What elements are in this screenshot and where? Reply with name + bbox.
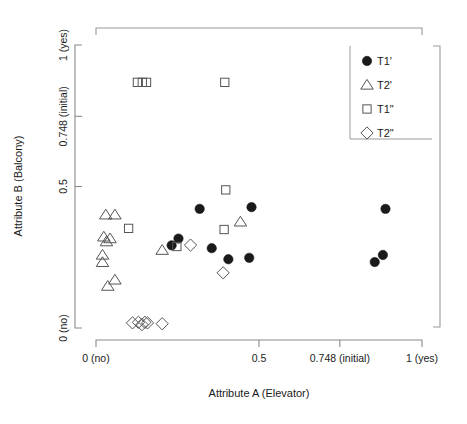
data-point-marker	[174, 234, 183, 243]
data-points-layer	[96, 78, 390, 331]
series-T1	[167, 202, 390, 266]
y-tick-label: 0.748 (initial)	[57, 86, 69, 146]
data-point-marker	[101, 281, 113, 291]
data-point-marker	[222, 186, 230, 194]
data-point-marker	[217, 267, 229, 279]
data-point-marker	[124, 224, 132, 232]
y-axis-title: Attribute B (Balcony)	[12, 136, 24, 237]
data-point-marker	[109, 274, 121, 284]
x-axis-tick-labels: 0 (no)0.50.748 (initial)1 (yes)	[82, 352, 438, 364]
legend-items: T1'T2'T1"T2"	[361, 55, 394, 139]
legend-marker-filled-circle	[362, 56, 371, 65]
x-tick-label: 0 (no)	[82, 352, 109, 364]
data-point-marker	[96, 257, 108, 267]
x-tick-label: 1 (yes)	[406, 352, 438, 364]
data-point-marker	[247, 202, 256, 211]
legend-marker-open-diamond	[361, 127, 373, 139]
x-axis-ticks	[259, 340, 340, 347]
legend-marker-open-square	[363, 105, 371, 113]
data-point-marker	[195, 204, 204, 213]
data-point-marker	[224, 255, 233, 264]
data-point-marker	[220, 225, 228, 233]
data-point-marker	[133, 78, 141, 86]
plot-canvas: 0 (no)0.50.748 (initial)1 (yes) 0 (no)0.…	[0, 0, 467, 424]
x-axis-title: Attribute A (Elevator)	[209, 387, 310, 399]
data-point-marker	[245, 253, 254, 262]
x-tick-label: 0.748 (initial)	[310, 352, 370, 364]
data-point-marker	[378, 250, 387, 259]
data-point-marker	[184, 239, 196, 251]
legend-label: T2'	[377, 79, 392, 91]
right-frame-bracket	[433, 46, 440, 327]
y-axis-tick-labels: 0 (no)0.50.748 (initial)1 (yes)	[57, 29, 69, 342]
legend: T1'T2'T1"T2"	[350, 46, 432, 139]
y-tick-label: 1 (yes)	[57, 29, 69, 61]
y-axis-ticks	[75, 116, 82, 186]
y-tick-label: 0 (no)	[57, 314, 69, 341]
legend-marker-open-triangle	[361, 79, 373, 89]
x-tick-label: 0.5	[252, 352, 267, 364]
y-tick-label: 0.5	[57, 179, 69, 194]
data-point-marker	[381, 204, 390, 213]
data-point-marker	[234, 216, 246, 226]
data-point-marker	[370, 257, 379, 266]
top-frame-bracket	[96, 28, 422, 35]
scatter-plot-figure: 0 (no)0.50.748 (initial)1 (yes) 0 (no)0.…	[0, 0, 467, 424]
series-T2	[126, 239, 229, 331]
data-point-marker	[156, 245, 168, 255]
data-point-marker	[207, 244, 216, 253]
legend-label: T2"	[377, 127, 394, 139]
plot-frame	[96, 28, 440, 327]
data-point-marker	[221, 78, 229, 86]
series-T1	[124, 78, 229, 250]
legend-label: T1'	[377, 55, 392, 67]
legend-label: T1"	[377, 103, 394, 115]
data-point-marker	[156, 318, 168, 330]
